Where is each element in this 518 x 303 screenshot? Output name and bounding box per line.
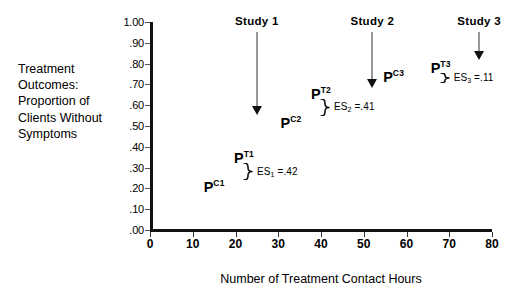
arrow-head	[367, 79, 377, 88]
es-value: =.42	[275, 165, 298, 176]
y-tick-label: .60	[110, 100, 144, 111]
y-tick-label: .70	[110, 79, 144, 90]
y-tick-mark	[145, 126, 150, 127]
point-superscript: C1	[213, 178, 224, 188]
point-superscript: C3	[393, 68, 404, 78]
x-tick-label: 40	[309, 238, 333, 250]
x-tick-mark	[278, 232, 279, 237]
point-letter: P	[383, 69, 393, 85]
arrow-shaft	[479, 32, 480, 51]
data-point-pc1: PC1	[204, 176, 225, 194]
x-tick-label: 60	[395, 238, 419, 250]
es-name: ES	[334, 101, 348, 112]
y-axis-line	[150, 22, 153, 231]
x-tick-mark	[449, 232, 450, 237]
y-tick-label: 1.00	[110, 17, 144, 28]
x-tick-mark	[193, 232, 194, 237]
effect-size-brace-2	[319, 99, 330, 116]
x-tick-label: 30	[266, 238, 290, 250]
study-label-3: Study 3	[457, 15, 501, 27]
effect-size-label-3: ES3 =.11	[454, 72, 494, 83]
y-tick-label: .80	[110, 59, 144, 70]
effect-size-label-1: ES1 =.42	[257, 166, 298, 177]
x-tick-mark	[407, 232, 408, 237]
arrow-head	[252, 106, 262, 115]
x-tick-mark	[236, 232, 237, 237]
point-superscript: T2	[321, 85, 331, 95]
y-axis-title: Treatment Outcomes: Proportion of Client…	[18, 61, 104, 142]
y-tick-label: .30	[110, 163, 144, 174]
y-tick-label: .40	[110, 142, 144, 153]
es-value: =.41	[352, 101, 375, 112]
point-superscript: C2	[290, 114, 301, 124]
study-label-1: Study 1	[235, 15, 279, 27]
study-arrow-3	[473, 32, 485, 60]
x-tick-label: 10	[181, 238, 205, 250]
y-tick-mark	[145, 84, 150, 85]
x-tick-label: 20	[224, 238, 248, 250]
effect-size-label-2: ES2 =.41	[334, 102, 375, 113]
y-tick-label: .10	[110, 204, 144, 215]
x-tick-mark	[321, 232, 322, 237]
effect-size-brace-1	[242, 163, 253, 180]
x-tick-mark	[150, 232, 151, 237]
x-tick-mark	[492, 232, 493, 237]
y-tick-mark	[145, 188, 150, 189]
es-subscript: 1	[271, 170, 275, 177]
es-name: ES	[454, 71, 468, 82]
y-axis-tick-labels: 1.00.90.80.70.60.50.40.30.20.10.00	[104, 0, 144, 240]
point-superscript: T3	[440, 59, 450, 69]
es-subscript: 2	[348, 106, 352, 113]
y-tick-mark	[145, 43, 150, 44]
point-superscript: T1	[244, 149, 254, 159]
es-subscript: 3	[467, 76, 471, 83]
data-point-pc3: PC3	[383, 66, 404, 84]
y-tick-label: .50	[110, 121, 144, 132]
point-letter: P	[204, 179, 214, 195]
study-arrow-2	[366, 32, 378, 87]
x-tick-label: 80	[480, 238, 504, 250]
es-name: ES	[257, 165, 271, 176]
effect-size-brace-3	[439, 73, 450, 83]
x-tick-label: 0	[138, 238, 162, 250]
x-axis-title: Number of Treatment Contact Hours	[150, 272, 492, 286]
chart-canvas: Treatment Outcomes: Proportion of Client…	[0, 0, 518, 303]
y-tick-mark	[145, 168, 150, 169]
y-tick-label: .20	[110, 183, 144, 194]
y-tick-mark	[145, 147, 150, 148]
x-tick-label: 70	[437, 238, 461, 250]
y-tick-mark	[145, 105, 150, 106]
y-tick-mark	[145, 209, 150, 210]
x-tick-mark	[364, 232, 365, 237]
arrow-head	[474, 51, 484, 60]
point-letter: P	[281, 114, 291, 130]
x-tick-label: 50	[352, 238, 376, 250]
study-label-2: Study 2	[350, 15, 394, 27]
y-tick-mark	[145, 64, 150, 65]
y-tick-mark	[145, 230, 150, 231]
y-tick-label: .90	[110, 38, 144, 49]
study-arrow-1	[251, 32, 263, 114]
data-point-pc2: PC2	[281, 112, 302, 130]
y-tick-mark	[145, 22, 150, 23]
arrow-shaft	[372, 32, 373, 78]
y-tick-label: .00	[110, 225, 144, 236]
es-value: =.11	[471, 71, 493, 82]
arrow-shaft	[256, 32, 257, 105]
